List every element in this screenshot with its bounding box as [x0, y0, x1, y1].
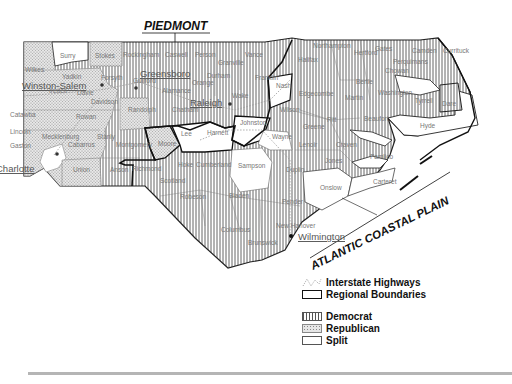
county-label: Randolph	[128, 106, 156, 114]
county-label: Jones	[325, 157, 343, 164]
county-label: Mecklenburg	[42, 133, 80, 141]
cape-hatteras	[420, 156, 432, 164]
nc-political-map: PIEDMONT ATLANTIC COASTAL PLAIN Greensbo…	[0, 0, 512, 384]
county-label: Cumberland	[196, 161, 232, 168]
county-label: Washington	[378, 89, 412, 97]
bottom-rule	[28, 372, 512, 375]
county-dare	[440, 83, 462, 112]
county-label: Sampson	[238, 162, 266, 170]
legend-label-highways: Interstate Highways	[326, 277, 420, 288]
county-label: Person	[195, 51, 216, 58]
county-label: Wilkes	[25, 66, 45, 73]
county-label: New Hanover	[276, 222, 316, 229]
county-label: Duplin	[286, 166, 305, 174]
county-label: Rockingham	[123, 51, 159, 59]
county-label: Harnett	[207, 129, 229, 136]
county-label: Pitt	[327, 116, 337, 123]
county-label: Bertie	[356, 78, 373, 85]
county-label: Guilford	[133, 77, 156, 84]
county-label: Beaufort	[364, 115, 389, 122]
county-label: Dare	[442, 100, 456, 107]
county-label: Craven	[336, 141, 357, 148]
legend-item-democrat: Democrat	[302, 310, 426, 322]
county-label: Currituck	[443, 47, 470, 54]
county-label: Surry	[60, 52, 76, 60]
county-label: Franklin	[255, 74, 279, 81]
county-label: Durham	[207, 72, 230, 79]
county-label: Davie	[77, 89, 94, 96]
interstate-highway-icon	[302, 278, 322, 287]
county-label: Rowan	[76, 113, 97, 120]
county-label: Northampton	[313, 42, 351, 50]
county-label: Columbus	[221, 226, 251, 233]
county-label: Nash	[276, 82, 292, 89]
map-legend: Interstate Highways Regional Boundaries …	[302, 276, 426, 346]
legend-item-boundaries: Regional Boundaries	[302, 288, 426, 300]
county-label: Tyrrell	[415, 97, 433, 105]
city-dot-winston-salem	[100, 83, 104, 87]
county-label: Davidson	[91, 98, 118, 105]
county-label: Gaston	[10, 142, 31, 149]
county-label: Gates	[375, 45, 393, 52]
county-label: Hoke	[178, 161, 194, 168]
county-label: Martin	[345, 94, 363, 101]
county-label: Lee	[181, 130, 192, 137]
county-label: Moore	[158, 140, 177, 147]
county-label: Scotland	[160, 177, 186, 184]
county-label: Johnston	[240, 119, 267, 126]
city-label: Charlotte	[0, 163, 35, 174]
legend-item-republican: Republican	[302, 322, 426, 334]
county-label: Iredell	[49, 87, 67, 94]
cape-lookout	[400, 176, 418, 190]
city-label: Wilmington	[298, 231, 345, 242]
county-label: Greene	[303, 123, 325, 130]
county-label: Lenoir	[299, 141, 318, 148]
city-dot-charlotte	[55, 152, 59, 156]
city-dot-greensboro	[134, 86, 138, 90]
legend-label-boundaries: Regional Boundaries	[326, 289, 426, 300]
county-label: Onslow	[320, 184, 342, 191]
county-label: Lincoln	[10, 128, 31, 135]
split-icon	[302, 336, 322, 345]
legend-label-republican: Republican	[326, 323, 380, 334]
county-label: Forsyth	[101, 74, 123, 82]
county-label: Hertford	[354, 49, 378, 56]
county-label: Anson	[110, 166, 129, 173]
county-label: Camden	[412, 47, 437, 54]
county-label: Brunswick	[248, 239, 278, 246]
county-label: Chowan	[385, 67, 409, 74]
county-label: Union	[73, 166, 90, 173]
city-dot-raleigh	[228, 102, 232, 106]
county-label: Stanly	[97, 133, 116, 141]
county-label: Chatham	[172, 106, 198, 113]
county-label: Wake	[232, 92, 249, 99]
coastal-leader	[342, 198, 377, 215]
county-sampson	[230, 148, 272, 192]
legend-item-split: Split	[302, 334, 426, 346]
county-label: Robeson	[180, 193, 206, 200]
county-label: Cabarrus	[68, 141, 95, 148]
county-label: Catawba	[10, 111, 36, 118]
county-label: Bladen	[229, 192, 250, 199]
county-label: Edgecombe	[299, 90, 334, 98]
county-label: Orange	[192, 79, 214, 87]
county-label: Pender	[282, 198, 304, 205]
county-label: Richmond	[132, 165, 162, 172]
legend-item-highways: Interstate Highways	[302, 276, 426, 288]
regional-boundary-icon	[302, 290, 322, 299]
county-label: Montgomery	[116, 141, 153, 149]
county-label: Pamlico	[370, 153, 394, 160]
county-label: Stokes	[95, 52, 116, 59]
county-randolph	[120, 98, 150, 130]
county-label: Vance	[245, 51, 263, 58]
county-label: Yadkin	[62, 73, 82, 80]
city-dot-wilmington	[289, 234, 293, 238]
republican-dots-icon	[302, 324, 322, 333]
county-label: Alamance	[162, 87, 191, 94]
legend-label-split: Split	[326, 335, 348, 346]
county-label: Wayne	[272, 133, 292, 141]
county-label: Caswell	[165, 51, 188, 58]
region-label-piedmont: PIEDMONT	[144, 19, 209, 33]
county-label: Halifax	[298, 56, 319, 63]
county-label: Hyde	[420, 122, 436, 130]
